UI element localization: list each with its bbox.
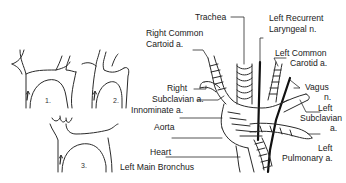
label-left-pulmonary-line2: Pulmonary a. — [282, 153, 333, 163]
label-left-recurrent-line2: Laryngeal n. — [269, 24, 316, 34]
label-innominate: Innominate a. — [131, 105, 183, 115]
trachea-drawing — [237, 64, 252, 104]
label-aorta: Aorta — [154, 122, 175, 132]
label-left-subclavian-line2: Subclavian — [300, 113, 342, 123]
aortic-arch-diagram: 1. 2. 3. Trachea Right Common Cartoid a.… — [0, 0, 346, 183]
label-left-subclavian-line3: a. — [330, 123, 337, 133]
variant-1-sketch — [12, 50, 76, 108]
right-common-carotid-drawing — [208, 56, 232, 104]
label-left-common-carotid-line1: Left Common — [275, 48, 327, 58]
left-common-carotid-drawing — [268, 62, 282, 102]
label-left-recurrent-line1: Left Recurrent — [269, 13, 323, 23]
variant-2-sketch — [82, 50, 129, 108]
label-vagus-line1: Vagus — [305, 82, 329, 92]
variant-2-number: 2. — [113, 97, 119, 104]
label-left-subclavian-line1: Left — [318, 103, 332, 113]
label-trachea: Trachea — [195, 12, 226, 22]
label-left-pulmonary-line1: Left — [318, 143, 332, 153]
label-left-common-carotid-line2: Carotid a. — [290, 58, 327, 68]
variant-1-number: 1. — [45, 97, 51, 104]
label-heart: Heart — [150, 147, 171, 157]
label-right-subclavian-line1: Right — [167, 83, 187, 93]
label-right-subclavian-line2: Subclavian a. — [152, 94, 204, 104]
label-left-main-bronchus: Left Main Bronchus — [120, 162, 194, 172]
label-right-common-carotid-line2: Cartoid a. — [146, 39, 183, 49]
variant-3-number: 3. — [81, 162, 87, 169]
label-vagus-line2: n. — [324, 92, 331, 102]
label-right-common-carotid-line1: Right Common — [146, 28, 203, 38]
